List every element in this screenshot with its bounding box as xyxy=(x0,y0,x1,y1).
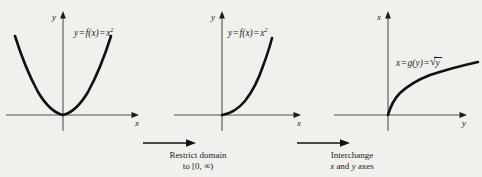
caption-2-line-2: x and y axes xyxy=(282,161,422,172)
panel-square-root: x y x=g(y)=√y xyxy=(310,0,482,135)
arrow-restrict-domain-icon xyxy=(128,138,268,148)
caption-interchange-axes: Interchange x and y axes xyxy=(282,138,422,173)
panel-2-vertical-axis-label: y xyxy=(211,13,215,22)
panel-1-horizontal-axis-label: x xyxy=(135,119,139,128)
panel-1-curve-label-fn: f(x) xyxy=(86,28,99,38)
panel-3-horizontal-axis-label: y xyxy=(462,119,466,128)
panel-2-graph xyxy=(150,0,310,135)
panel-2-vertical-axis-arrow xyxy=(219,11,225,19)
panel-3-sqrt-curve xyxy=(388,62,478,115)
arrow-2-head xyxy=(340,139,350,147)
panel-1-vertical-axis-arrow xyxy=(60,11,66,19)
panel-2-curve-label: y=f(x)=x2 xyxy=(228,27,268,39)
caption-2-suffix: axes xyxy=(356,161,374,171)
panel-3-curve-label-fn: g(y) xyxy=(408,58,423,68)
caption-1-line-1: Restrict domain xyxy=(128,150,268,161)
panel-1-graph xyxy=(0,0,150,135)
caption-2-line-1: Interchange xyxy=(282,150,422,161)
panel-2-curve-label-eq1: = xyxy=(232,28,239,38)
arrow-1-head xyxy=(186,139,196,147)
panel-full-parabola: y x y=f(x)=x2 xyxy=(0,0,150,135)
panel-1-curve-label: y=f(x)=x2 xyxy=(74,27,114,39)
panel-2-curve-label-fn: f(x) xyxy=(240,28,253,38)
panel-3-curve-label: x=g(y)=√y xyxy=(396,57,442,68)
panel-2-curve-label-exponent: 2 xyxy=(264,26,267,33)
panel-restricted-parabola: y x y=f(x)=x2 xyxy=(150,0,310,135)
panel-2-horizontal-axis-label: x xyxy=(297,119,301,128)
arrow-interchange-axes-icon xyxy=(282,138,422,148)
panel-1-curve-label-exponent: 2 xyxy=(110,26,113,33)
radical-icon: √ xyxy=(430,56,436,68)
caption-1-line-2: to [0, ∞) xyxy=(128,161,268,172)
panel-2-half-parabola-curve xyxy=(222,38,272,115)
inverse-function-figure: y x y=f(x)=x2 y x y=f(x)=x2 xyxy=(0,0,482,177)
caption-restrict-domain: Restrict domain to [0, ∞) xyxy=(128,138,268,173)
panel-3-vertical-axis-arrow xyxy=(385,11,391,19)
panel-3-curve-label-eq1: = xyxy=(400,58,407,68)
caption-2-and: and xyxy=(334,161,352,171)
panel-3-vertical-axis-label: x xyxy=(377,13,381,22)
panel-1-vertical-axis-label: y xyxy=(52,13,56,22)
panel-1-curve-label-eq1: = xyxy=(78,28,85,38)
